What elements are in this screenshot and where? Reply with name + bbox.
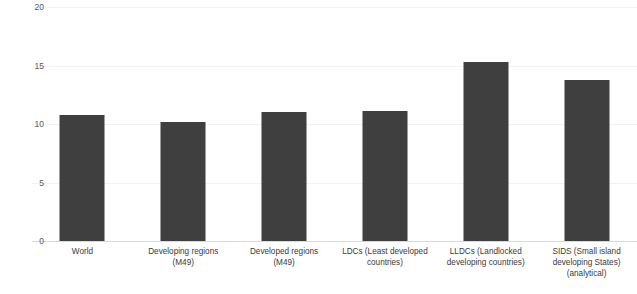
y-tick-label-10: 10 — [18, 120, 44, 129]
bar[interactable] — [262, 112, 307, 241]
bar[interactable] — [362, 111, 407, 241]
bar-chart: 05101520 WorldDeveloping regions(M49)Dev… — [0, 0, 637, 294]
x-axis-label: LLDCs (Landlockeddeveloping countries) — [435, 246, 536, 268]
x-axis-label-line: (M49) — [133, 257, 234, 268]
bar-slot — [335, 7, 436, 241]
y-tick-label-15: 15 — [18, 62, 44, 71]
bar-slot — [32, 7, 133, 241]
x-axis-label-line: Developed regions — [234, 246, 335, 257]
x-axis-label-line: (analytical) — [536, 268, 637, 279]
x-axis-label: Developed regions(M49) — [234, 246, 335, 268]
x-axis-label: LDCs (Least developedcountries) — [335, 246, 436, 268]
x-axis-label-line: developing countries) — [435, 257, 536, 268]
x-axis-label-line: developing States) — [536, 257, 637, 268]
plot-area — [32, 7, 637, 241]
gridline-0 — [32, 241, 637, 242]
x-axis-label-line: countries) — [335, 257, 436, 268]
x-axis-label-line: (M49) — [234, 257, 335, 268]
y-tick-label-0: 0 — [18, 237, 44, 246]
bar[interactable] — [161, 122, 206, 241]
x-axis-label: World — [32, 246, 133, 257]
bar[interactable] — [60, 115, 105, 241]
y-tick-label-5: 5 — [18, 179, 44, 188]
x-axis-label-line: Developing regions — [133, 246, 234, 257]
bar-slot — [536, 7, 637, 241]
bar-slot — [234, 7, 335, 241]
x-axis-label-line: World — [32, 246, 133, 257]
y-tick-label-20: 20 — [18, 3, 44, 12]
bar-slot — [133, 7, 234, 241]
x-axis-label: Developing regions(M49) — [133, 246, 234, 268]
x-axis-label-line: LLDCs (Landlocked — [435, 246, 536, 257]
x-axis-label-line: LDCs (Least developed — [335, 246, 436, 257]
bar[interactable] — [564, 80, 609, 241]
x-axis-category-labels: WorldDeveloping regions(M49)Developed re… — [32, 246, 637, 294]
bars-group — [32, 7, 637, 241]
bar[interactable] — [463, 62, 508, 241]
bar-slot — [435, 7, 536, 241]
x-axis-label: SIDS (Small islanddeveloping States)(ana… — [536, 246, 637, 279]
x-axis-label-line: SIDS (Small island — [536, 246, 637, 257]
